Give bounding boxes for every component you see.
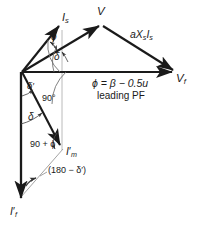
label-axs-is-a: aX [130, 28, 143, 40]
label-vf-main: V [176, 72, 184, 84]
label-ninety-plus-phi: 90 + ϕ [30, 140, 55, 149]
label-if: I′f [10, 206, 17, 219]
label-delta-prime: δ′ [27, 81, 34, 91]
annotation-condition: leading PF [97, 91, 145, 102]
label-one-eighty-minus-delta-prime-text: (180 − δ′) [48, 165, 86, 175]
label-ninety-degrees-text: 90° [42, 93, 56, 103]
label-vf: Vf [176, 72, 186, 86]
label-if-sub: f [15, 211, 17, 219]
label-delta-top: δ [54, 52, 60, 63]
label-v: V [97, 5, 105, 17]
label-is-sub: s [65, 16, 69, 25]
label-phi-top-glyph: ϕ [51, 31, 57, 42]
label-delta-prime-glyph: δ′ [27, 80, 34, 91]
label-is: Is [62, 12, 69, 24]
annotation-equation-text: ϕ = β − 0.5u [92, 77, 148, 89]
annotation-equation: ϕ = β − 0.5u [92, 78, 148, 89]
label-one-eighty-minus-delta-prime: (180 − δ′) [48, 166, 86, 175]
label-delta-lower: δ [28, 112, 34, 123]
label-im-sub: m [71, 151, 77, 159]
arc-delta-top [62, 52, 68, 62]
phasor-diagram: Is V aXsIs Vf ϕ δ δ′ 90° δ 90 + ϕ I′m (1… [0, 0, 199, 231]
label-vf-sub: f [184, 77, 186, 86]
label-delta-lower-glyph: δ [28, 111, 34, 122]
label-phi-top: ϕ [51, 32, 57, 43]
vector-v [22, 26, 99, 72]
label-im: I′m [66, 146, 77, 159]
label-ninety-plus-phi-text: 90 + ϕ [30, 139, 55, 149]
label-delta-top-glyph: δ [54, 51, 60, 62]
label-v-main: V [97, 5, 105, 17]
phasor-vectors [21, 26, 173, 198]
label-axs-is-sub2: s [149, 34, 153, 42]
label-axs-is: aXsIs [130, 29, 153, 42]
label-ninety-degrees: 90° [42, 94, 56, 103]
annotation-condition-text: leading PF [97, 90, 145, 101]
